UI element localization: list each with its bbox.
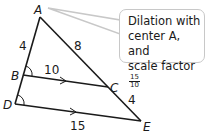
vertex-label-C: C [110,81,119,95]
segment-label-AB: 4 [19,39,27,53]
vertex-label-D: D [3,98,12,112]
segment-label-DE: 15 [70,119,85,132]
scale-factor-fraction: 1510 [129,74,140,89]
callout-pointer [48,8,120,34]
angle-arc-B [26,66,32,76]
segment-label-CE: 4 [128,93,136,107]
segment-label-AC: 8 [74,39,82,53]
callout-line-2: center A, and [128,29,204,59]
vertex-label-E: E [143,120,151,132]
vertex-label-B: B [11,69,19,83]
segment-AD [15,17,40,104]
callout-line-3: scale factor 1510 [128,59,204,89]
angle-arc-D [18,95,24,105]
vertex-label-A: A [33,3,42,17]
dilation-callout: Dilation with center A, and scale factor… [119,9,205,63]
callout-line-1: Dilation with [128,14,204,29]
fraction-denominator: 10 [130,82,139,89]
callout-scale-text: scale factor [128,59,195,73]
segment-label-BC: 10 [44,63,59,77]
